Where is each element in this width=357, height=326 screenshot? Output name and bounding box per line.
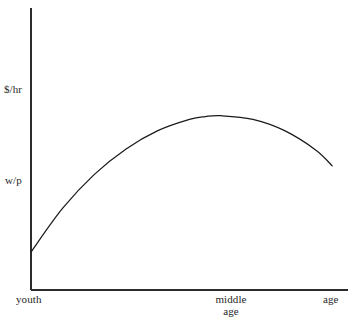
x-axis-label-middle-line1: middle (205, 293, 257, 305)
data-curve-group (31, 116, 332, 252)
x-axis-label-youth: youth (16, 293, 42, 305)
age-earnings-chart: $/hr w/p youth middle age age (0, 0, 357, 326)
y-axis-label-dollar-per-hour: $/hr (4, 83, 22, 95)
y-axis-label-wage-price: w/p (5, 174, 22, 186)
concave-curve (31, 116, 332, 252)
x-axis-label-age: age (323, 293, 339, 305)
chart-plot-area (0, 0, 357, 326)
axes-group (31, 8, 348, 290)
x-axis-label-middle-age: middle age (205, 293, 257, 317)
x-axis-label-middle-line2: age (205, 305, 257, 317)
